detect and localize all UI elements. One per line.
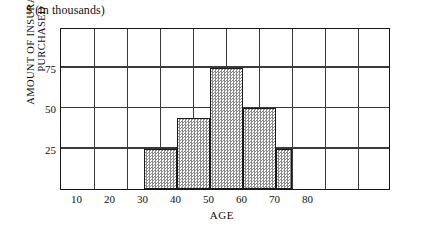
insurance-histogram-chart: $ (in thousands) AMOUNT OF INSURANCE PUR… xyxy=(0,0,422,235)
histogram-bar xyxy=(177,118,210,189)
histogram-bar xyxy=(243,108,276,189)
x-axis-tick-label: 60 xyxy=(236,193,247,205)
y-axis-tick-label: 25 xyxy=(22,144,56,156)
x-axis-tick-label: 80 xyxy=(302,193,313,205)
x-axis-tick-label: 40 xyxy=(170,193,181,205)
y-axis-tick-label: 50 xyxy=(22,103,56,115)
x-axis-tick-label: 30 xyxy=(137,193,148,205)
x-axis-title: AGE xyxy=(0,209,422,221)
histogram-bar xyxy=(144,149,177,190)
y-axis-tick-label: 75 xyxy=(22,63,56,75)
x-axis-tick-label: 10 xyxy=(71,193,82,205)
plot-area xyxy=(60,28,390,190)
x-axis-tick-label: 70 xyxy=(269,193,280,205)
x-axis-tick-labels: 1020304050607080 xyxy=(60,193,390,209)
x-axis-tick-label: 50 xyxy=(203,193,214,205)
histogram-bar xyxy=(276,149,293,190)
y-axis-tick-labels: 255075 xyxy=(20,28,56,190)
histogram-bar xyxy=(210,68,243,190)
bar-series xyxy=(61,29,389,189)
x-axis-tick-label: 20 xyxy=(104,193,115,205)
